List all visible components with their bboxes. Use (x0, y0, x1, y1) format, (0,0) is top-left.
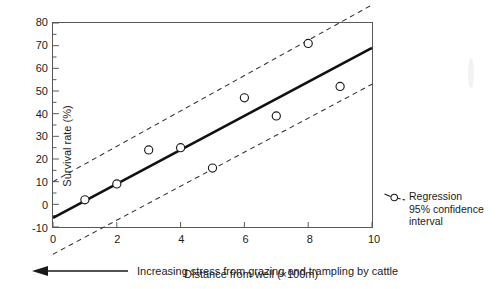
x-tick-label: 10 (363, 234, 385, 245)
y-tick-label: 80 (22, 17, 48, 28)
data-points-layer (81, 39, 344, 204)
y-tick-label: 40 (22, 109, 48, 120)
data-point (113, 180, 121, 188)
y-tick-label: 20 (22, 154, 48, 165)
left-arrow-icon (32, 264, 128, 278)
x-tick-label: 0 (42, 234, 64, 245)
data-point (304, 39, 312, 47)
plot-canvas (53, 23, 372, 227)
regression-line-layer (53, 48, 372, 218)
data-point (272, 112, 280, 120)
stress-annotation: Increasing stress from grazing and tramp… (32, 264, 398, 278)
y-axis-title: Survival rate (%) (61, 91, 73, 201)
regression-circle-icon (383, 191, 409, 204)
data-point (177, 144, 185, 152)
x-tick-label: 4 (170, 234, 192, 245)
y-tick-label: 10 (22, 177, 48, 188)
legend: Regression 95% confidence interval (383, 190, 495, 228)
scan-artifact (468, 58, 474, 88)
y-tick-label: -10 (22, 223, 48, 234)
y-tick-label: 50 (22, 86, 48, 97)
legend-line-interval: interval (409, 215, 484, 228)
y-tick-label: 0 (22, 200, 48, 211)
x-tick-label: 2 (106, 234, 128, 245)
x-tick-label: 6 (235, 234, 257, 245)
legend-text: Regression 95% confidence interval (409, 190, 484, 228)
data-point (208, 164, 216, 172)
stress-annotation-text: Increasing stress from grazing and tramp… (137, 265, 398, 278)
figure-container: Survival rate (%) Distance from well (×1… (0, 0, 499, 289)
legend-row: Regression 95% confidence interval (383, 190, 495, 228)
data-point (336, 82, 344, 90)
tick-marks-layer (53, 23, 372, 227)
legend-line-regression: Regression (409, 190, 484, 203)
y-tick-label: 30 (22, 131, 48, 142)
x-tick-label: 8 (299, 234, 321, 245)
data-point (145, 146, 153, 154)
plot-area: Survival rate (%) Distance from well (×1… (52, 22, 373, 228)
data-point (81, 196, 89, 204)
legend-line-confidence: 95% confidence (409, 203, 484, 216)
y-tick-label: 60 (22, 63, 48, 74)
data-point (240, 94, 248, 102)
confidence-band-layer (53, 5, 372, 254)
y-tick-label: 70 (22, 40, 48, 51)
